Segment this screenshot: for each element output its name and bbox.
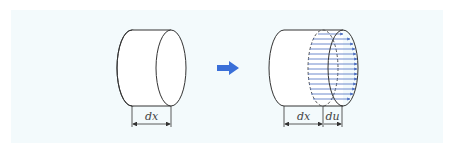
right-dx-label: dx xyxy=(297,110,311,123)
right-cylinder xyxy=(269,30,358,106)
right-du-label: du xyxy=(325,110,339,123)
left-dimension: dx xyxy=(132,106,171,127)
right-dimension: dx du xyxy=(284,106,342,127)
left-cylinder xyxy=(117,30,186,106)
right-arrow-icon xyxy=(217,61,239,75)
cylinder-deformation-diagram: dx xyxy=(0,0,453,151)
left-dx-label: dx xyxy=(145,110,159,123)
